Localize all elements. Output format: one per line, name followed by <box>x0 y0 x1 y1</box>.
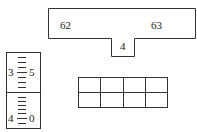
gauge-lower-right-label: 0 <box>29 113 35 124</box>
gauge-upper-right-label: 5 <box>29 67 35 78</box>
scale-right-label: 63 <box>151 20 162 31</box>
scale-pointer-label: 4 <box>120 41 126 52</box>
gauge-ticks <box>17 58 27 124</box>
gauge-lower-left-label: 4 <box>8 113 14 124</box>
scale-left-label: 62 <box>60 20 71 31</box>
gauge-upper-left-label: 3 <box>8 67 14 78</box>
grid-table <box>79 78 168 108</box>
